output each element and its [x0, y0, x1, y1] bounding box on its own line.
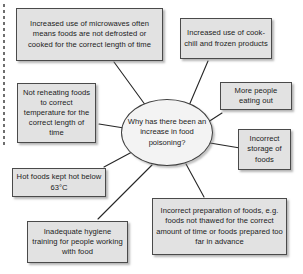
node-reheating-temperature: Not reheating foods to correct temperatu… [17, 83, 96, 143]
connector-to-storage [210, 143, 240, 148]
node-cook-chill-frozen-text: Increased use of cook-chill and frozen p… [184, 28, 268, 48]
connector-to-reheating [99, 124, 124, 128]
node-cook-chill-frozen: Increased use of cook-chill and frozen p… [180, 18, 272, 59]
food-poisoning-mind-map: Why has there been an increase in food p… [0, 0, 303, 274]
node-inadequate-hygiene-training: Inadequate hygiene training for people w… [27, 221, 128, 263]
connector-to-hygiene [98, 165, 152, 219]
node-incorrect-storage: Incorrect storage of foods [238, 129, 291, 170]
node-microwaves: Increased use of microwaves often means … [16, 8, 163, 61]
connector-to-microwaves [114, 62, 146, 106]
node-more-people-eating-out: More people eating out [220, 82, 292, 110]
center-question-node: Why has there been an increase in food p… [121, 99, 213, 166]
node-inadequate-hygiene-training-text: Inadequate hygiene training for people w… [31, 227, 124, 257]
node-reheating-temperature-text: Not reheating foods to correct temperatu… [21, 88, 92, 138]
connector-to-hotfoods [104, 152, 132, 167]
node-incorrect-preparation-text: Incorrect preparation of foods, e.g. foo… [156, 206, 283, 246]
node-hot-foods-below-63c: Hot foods kept hot below 63°C [12, 168, 106, 197]
node-incorrect-storage-text: Incorrect storage of foods [242, 134, 287, 164]
node-incorrect-preparation: Incorrect preparation of foods, e.g. foo… [152, 198, 287, 255]
connector-to-cookchill [188, 61, 208, 108]
connector-to-preparation [186, 164, 204, 197]
node-hot-foods-below-63c-text: Hot foods kept hot below 63°C [16, 172, 102, 192]
center-question-text: Why has there been an increase in food p… [122, 117, 212, 148]
node-more-people-eating-out-text: More people eating out [224, 86, 288, 106]
node-microwaves-text: Increased use of microwaves often means … [20, 19, 159, 49]
